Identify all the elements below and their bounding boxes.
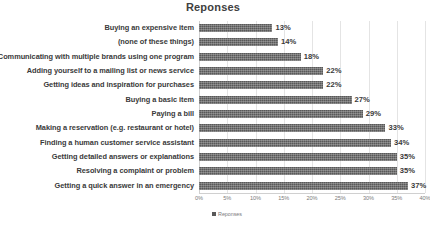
plot-area: 13%14%18%22%22%27%29%33%34%35%35%37% [199, 21, 425, 193]
legend-swatch-icon [212, 212, 216, 216]
category-label: Communicating with multiple brands using… [0, 50, 194, 64]
category-label: Making a reservation (e.g. restaurant or… [36, 121, 194, 135]
gridline [425, 21, 426, 193]
category-label: Buying an expensive item [104, 21, 194, 35]
category-label-row: Finding a human customer service assista… [0, 136, 197, 150]
bar-row: 37% [199, 179, 425, 193]
chart-title: Reponses [0, 1, 426, 13]
category-axis: Buying an expensive item(none of these t… [0, 21, 197, 193]
category-label-row: (none of these things) [0, 35, 197, 49]
bar[interactable] [199, 153, 397, 161]
bar[interactable] [199, 167, 397, 175]
bar-value-label: 35% [400, 150, 415, 164]
bar-row: 34% [199, 136, 425, 150]
bar-row: 14% [199, 35, 425, 49]
category-label-row: Making a reservation (e.g. restaurant or… [0, 121, 197, 135]
category-label: Finding a human customer service assista… [40, 136, 194, 150]
bar-row: 35% [199, 150, 425, 164]
bar[interactable] [199, 96, 352, 104]
bar-value-label: 37% [411, 179, 426, 193]
bar-row: 22% [199, 78, 425, 92]
bar[interactable] [199, 53, 301, 61]
category-label: Paying a bill [152, 107, 194, 121]
category-label-row: Getting a quick answer in an emergency [0, 179, 197, 193]
bar-row: 33% [199, 121, 425, 135]
bar-row: 13% [199, 21, 425, 35]
x-tick-label: 5% [223, 195, 231, 201]
category-label: Resolving a complaint or problem [77, 164, 195, 178]
category-label-row: Buying an expensive item [0, 21, 197, 35]
x-tick-label: 15% [278, 195, 289, 201]
category-label-row: Getting ideas and inspiration for purcha… [0, 78, 197, 92]
x-tick-label: 0% [195, 195, 203, 201]
bar[interactable] [199, 24, 272, 32]
bar-value-label: 22% [326, 78, 341, 92]
bar[interactable] [199, 124, 385, 132]
bar-row: 27% [199, 93, 425, 107]
bar[interactable] [199, 67, 323, 75]
category-label: Buying a basic item [126, 93, 194, 107]
bar-row: 35% [199, 164, 425, 178]
bar-value-label: 18% [304, 50, 319, 64]
bar-row: 29% [199, 107, 425, 121]
bar-value-label: 27% [355, 93, 370, 107]
plot-wrapper: Buying an expensive item(none of these t… [0, 21, 426, 193]
x-tick-label: 25% [335, 195, 346, 201]
category-label: Getting ideas and inspiration for purcha… [43, 78, 194, 92]
category-label: (none of these things) [118, 35, 194, 49]
category-label-row: Adding yourself to a mailing list or new… [0, 64, 197, 78]
category-label-row: Communicating with multiple brands using… [0, 50, 197, 64]
bar[interactable] [199, 182, 408, 190]
category-label-row: Buying a basic item [0, 93, 197, 107]
bar-value-label: 14% [281, 35, 296, 49]
bar[interactable] [199, 139, 391, 147]
bar[interactable] [199, 38, 278, 46]
chart-legend: Reponses [0, 211, 426, 217]
x-tick-label: 20% [307, 195, 318, 201]
legend-label: Reponses [218, 211, 242, 217]
bar-value-label: 22% [326, 64, 341, 78]
bar-value-label: 34% [394, 136, 409, 150]
x-tick-label: 30% [363, 195, 374, 201]
category-label-row: Resolving a complaint or problem [0, 164, 197, 178]
bar[interactable] [199, 110, 363, 118]
x-tick-label: 40% [420, 195, 430, 201]
bar-value-label: 29% [366, 107, 381, 121]
x-tick-label: 35% [391, 195, 402, 201]
bar[interactable] [199, 81, 323, 89]
category-label: Getting detailed answers or explanations [52, 150, 194, 164]
bar-value-label: 35% [400, 164, 415, 178]
category-label: Adding yourself to a mailing list or new… [27, 64, 194, 78]
bar-row: 18% [199, 50, 425, 64]
x-tick-label: 10% [250, 195, 261, 201]
x-axis-line [199, 193, 425, 194]
bar-value-label: 33% [388, 121, 403, 135]
category-label: Getting a quick answer in an emergency [55, 179, 194, 193]
bar-value-label: 13% [275, 21, 290, 35]
category-label-row: Paying a bill [0, 107, 197, 121]
category-label-row: Getting detailed answers or explanations [0, 150, 197, 164]
bar-row: 22% [199, 64, 425, 78]
